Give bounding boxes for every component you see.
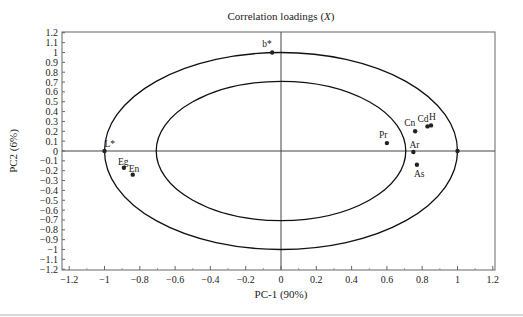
x-tick-label: −0.8: [131, 274, 149, 285]
point-label: As: [414, 169, 425, 179]
x-tick-label: −0.6: [166, 274, 184, 285]
loading-point: Pr: [379, 130, 389, 145]
point-label: Cd: [417, 114, 428, 124]
correlation-loadings-chart: Correlation loadings (X) −1.2−1−0.8−0.6−…: [0, 0, 523, 317]
loading-point: Ar: [409, 140, 420, 154]
loading-point: En: [129, 164, 140, 177]
bottom-divider: [0, 314, 523, 316]
loading-point: As: [414, 163, 425, 179]
x-tick-label: 0.6: [381, 274, 394, 285]
point-label: En: [129, 164, 140, 174]
x-tick-label: 1: [455, 274, 460, 285]
loading-point: H: [429, 112, 436, 127]
x-axis-title: PC-1 (90%): [255, 288, 308, 301]
point-label: b*: [262, 39, 272, 49]
point-label: Ar: [409, 140, 420, 150]
loading-point: Cn: [404, 118, 417, 133]
y-tick-label: −1.2: [40, 264, 58, 275]
x-tick-label: 0.8: [416, 274, 429, 285]
chart-title: Correlation loadings (X): [228, 10, 335, 23]
x-tick-label: −0.2: [237, 274, 255, 285]
y-axis-ticks: 1.21.110.90.80.70.60.50.40.30.20.10−0.1−…: [40, 27, 65, 274]
x-tick-label: 0.2: [310, 274, 323, 285]
x-tick-label: −1: [99, 274, 110, 285]
point-label: L*: [105, 139, 116, 149]
x-tick-label: 0: [279, 274, 284, 285]
x-tick-label: −1.2: [60, 274, 78, 285]
loading-point: Eg: [118, 157, 129, 170]
point-label: Pr: [379, 130, 388, 140]
x-tick-label: 0.4: [345, 274, 358, 285]
x-axis-ticks: −1.2−1−0.8−0.6−0.4−0.200.20.40.60.811.2: [60, 266, 499, 285]
loading-point: Cd: [417, 114, 429, 128]
x-tick-label: −0.4: [201, 274, 219, 285]
zero-axes: [62, 32, 495, 270]
y-axis-title: PC2 (6%): [7, 129, 20, 173]
point-label: H: [429, 112, 436, 122]
loading-point: [455, 149, 459, 153]
point-label: Cn: [404, 118, 415, 128]
point-label: Eg: [118, 157, 129, 167]
x-tick-label: 1.2: [487, 274, 500, 285]
